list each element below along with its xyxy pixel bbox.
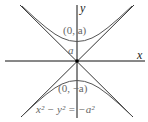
origin-point bbox=[75, 59, 79, 63]
a-marker-label: a bbox=[68, 45, 74, 56]
vertex-top-label: (0, a) bbox=[63, 25, 86, 36]
y-axis-label: y bbox=[80, 2, 85, 14]
x-axis-label: x bbox=[137, 49, 142, 61]
equation-label: x² − y² = −a² bbox=[36, 104, 94, 115]
vertex-bottom-label: (0, −a) bbox=[58, 83, 87, 94]
